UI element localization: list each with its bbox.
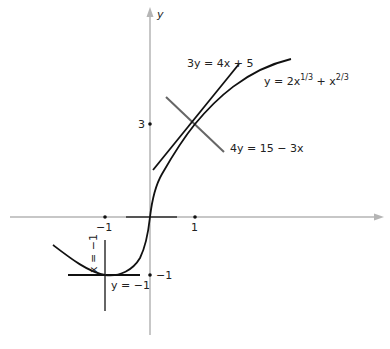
x-axis-arrow-icon xyxy=(374,214,384,221)
tick-x-1 xyxy=(193,215,197,219)
y-tick-label-3: 3 xyxy=(138,119,145,130)
tick-x-neg1 xyxy=(103,215,107,219)
plot-area xyxy=(0,0,390,349)
x-tick-label-1: 1 xyxy=(191,222,198,233)
curve-label-mid: + x xyxy=(313,75,336,88)
tangent-label-1-3: 3y = 4x + 5 xyxy=(187,58,253,69)
normal-label-x-neg1: x = −1 xyxy=(88,234,99,273)
curve-label-main: y = 2x xyxy=(264,75,300,88)
tick-y-3 xyxy=(148,122,152,126)
tangent-label-y-neg1: y = −1 xyxy=(111,280,150,291)
x-tick-label-neg1: −1 xyxy=(96,222,112,233)
curve-label-exp2: 2/3 xyxy=(336,73,349,82)
y-axis-arrow-icon xyxy=(147,7,154,17)
curve-label-exp1: 1/3 xyxy=(300,73,313,82)
curve-label: y = 2x1/3 + x2/3 xyxy=(264,74,349,87)
y-tick-label-neg1: −1 xyxy=(156,270,172,281)
normal-label-1-3: 4y = 15 − 3x xyxy=(230,143,303,154)
tangent-line-1-3 xyxy=(153,64,239,170)
tick-y-neg1 xyxy=(148,273,152,277)
y-axis-label: y xyxy=(157,9,164,20)
